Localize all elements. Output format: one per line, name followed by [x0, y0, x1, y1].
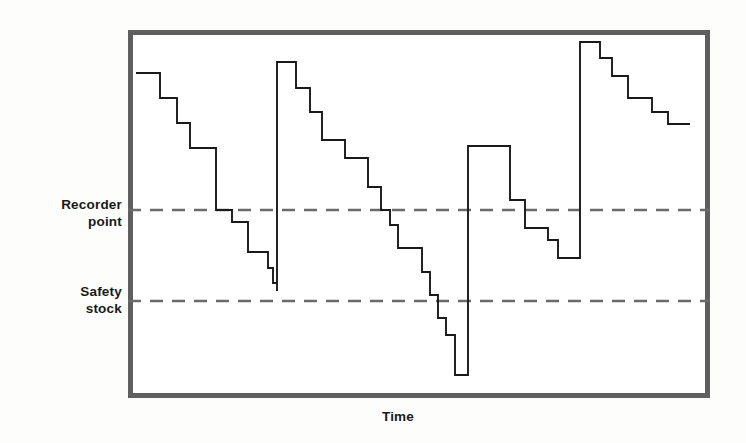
plot-background: [128, 30, 710, 398]
x-axis-label: Time: [338, 409, 458, 424]
safety-stock-label: Safety stock: [18, 283, 122, 318]
reorder-point-label: Recorder point: [18, 196, 122, 231]
